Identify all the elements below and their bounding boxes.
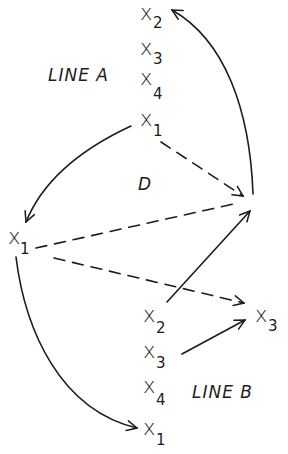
node-sub: 1 (20, 240, 30, 258)
node-sub: 2 (153, 14, 163, 32)
line-b-label: LINE B (192, 382, 253, 402)
edge-b-x3-to-right-x3 (182, 320, 245, 354)
node-var: x (143, 303, 155, 327)
line-a-node-x3: x 3 (140, 36, 163, 68)
line-a-node-x1: x 1 (140, 107, 163, 140)
node-sub: 1 (153, 122, 163, 140)
diagram: x 2 x 3 LINE A x 4 x 1 D x 1 x 3 x 2 x 3… (0, 0, 288, 454)
right-node-x3: x 3 (255, 303, 278, 335)
node-sub: 2 (156, 319, 166, 337)
node-var: x (143, 416, 155, 440)
edge-left-x1-to-junction (36, 203, 238, 248)
line-a-label: LINE A (48, 65, 109, 85)
edge-b-x2-to-junction (167, 211, 250, 302)
line-a-node-x2: x 2 (140, 1, 163, 32)
node-var: x (8, 225, 20, 249)
region-label-d: D (138, 174, 152, 194)
node-var: x (140, 107, 152, 131)
node-sub: 1 (156, 431, 166, 449)
node-var: x (143, 339, 155, 363)
node-sub: 3 (156, 354, 166, 372)
line-a-node-x4: x 4 (140, 66, 163, 103)
edge-left-x1-to-b-x1 (16, 257, 137, 428)
edge-a-x1-to-junction (161, 142, 243, 196)
node-var: x (140, 66, 152, 90)
node-var: x (140, 36, 152, 60)
line-b-node-x1: x 1 (143, 416, 166, 449)
node-sub: 4 (156, 391, 166, 409)
line-b-node-x3: x 3 (143, 339, 166, 372)
left-node-x1: x 1 (8, 225, 30, 258)
node-sub: 3 (153, 50, 163, 68)
node-var: x (143, 374, 155, 398)
line-b-node-x2: x 2 (143, 303, 166, 337)
node-var: x (255, 303, 267, 327)
edge-junction-to-a-x2 (172, 10, 253, 194)
line-b-node-x4: x 4 (143, 374, 166, 409)
node-sub: 3 (268, 317, 278, 335)
node-sub: 4 (153, 85, 163, 103)
edge-a-x1-to-left-x1 (26, 126, 131, 222)
edge-left-x1-to-right-x3 (54, 258, 244, 303)
node-var: x (140, 1, 152, 25)
